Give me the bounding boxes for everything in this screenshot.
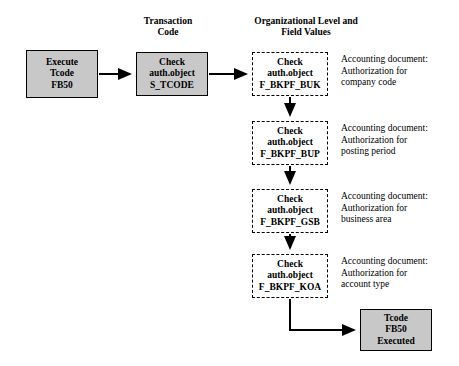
box-check-f-bkpf-bup[interactable]: Check auth.object F_BKPF_BUP — [252, 121, 328, 165]
box-check-f-bkpf-gsb[interactable]: Check auth.object F_BKPF_GSB — [252, 189, 328, 233]
note-business-area: Accounting document: Authorization for b… — [341, 191, 459, 226]
header-org-level-field-values: Organizational Level and Field Values — [236, 16, 376, 38]
box-check-s-tcode[interactable]: Check auth.object S_TCODE — [136, 52, 208, 96]
box-check-f-bkpf-koa[interactable]: Check auth.object F_BKPF_KOA — [252, 254, 328, 298]
box-check-f-bkpf-buk[interactable]: Check auth.object F_BKPF_BUK — [252, 52, 328, 96]
arrow-koa-to-executed — [290, 299, 354, 330]
box-tcode-executed[interactable]: Tcode FB50 Executed — [360, 309, 432, 351]
note-account-type: Accounting document: Authorization for a… — [341, 256, 459, 291]
note-company-code: Accounting document: Authorization for c… — [341, 54, 459, 89]
header-transaction-code: Transaction Code — [128, 16, 208, 38]
diagram-canvas: Transaction Code Organizational Level an… — [0, 0, 459, 366]
box-execute-tcode[interactable]: Execute Tcode FB50 — [26, 50, 98, 98]
note-posting-period: Accounting document: Authorization for p… — [341, 123, 459, 158]
